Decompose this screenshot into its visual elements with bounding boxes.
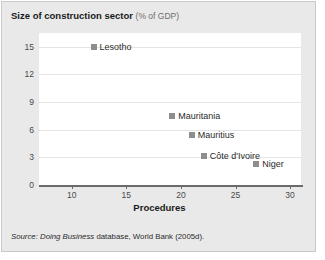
x-axis-tick-mark [126,185,127,189]
data-point-marker [201,153,207,159]
x-axis-line [39,185,303,187]
data-point-label: Mauritania [178,111,220,121]
y-axis-tick-label: 6 [8,125,34,135]
data-point-marker [91,44,97,50]
x-axis-tick-label: 20 [166,190,196,200]
data-point-label: Mauritius [198,130,235,140]
x-axis-tick-label: 25 [221,190,251,200]
x-axis-tick-mark [236,185,237,189]
x-axis-tick-label: 30 [275,190,305,200]
gridline [39,102,301,103]
gridline [39,74,301,75]
x-axis-title: Procedures [2,202,317,213]
x-axis-tick-label: 15 [111,190,141,200]
y-axis-tick-label: 9 [8,97,34,107]
source-prefix: Source: [11,232,38,241]
chart-title-unit: (% of GDP) [136,11,179,21]
source-note: Source: Doing Business database, World B… [11,232,204,241]
data-point-marker [253,161,259,167]
x-axis-tick-mark [72,185,73,189]
chart-title-main: Size of construction sector [11,10,133,21]
plot-area: LesothoMauritaniaMauritiusCôte d'IvoireN… [39,33,301,185]
data-point-label: Niger [262,159,284,169]
data-point-label: Lesotho [100,42,132,52]
x-axis-tick-mark [290,185,291,189]
y-axis-tick-label: 0 [8,180,34,190]
chart-title: Size of construction sector (% of GDP) [11,10,179,21]
y-axis-tick-label: 15 [8,42,34,52]
y-axis-tick-label: 12 [8,69,34,79]
data-point-label: Côte d'Ivoire [210,151,260,161]
data-point-marker [169,113,175,119]
y-axis-tick-label: 3 [8,152,34,162]
y-axis-tick-labels: 03691215 [6,33,34,185]
source-rest: database, World Bank (2005d). [96,232,204,241]
source-publication: Doing Business [40,232,94,241]
x-axis-tick-label: 10 [57,190,87,200]
figure-panel: Size of construction sector (% of GDP) L… [1,1,316,252]
gridline [39,130,301,131]
gridline [39,47,301,48]
x-axis-tick-mark [181,185,182,189]
data-point-marker [189,132,195,138]
